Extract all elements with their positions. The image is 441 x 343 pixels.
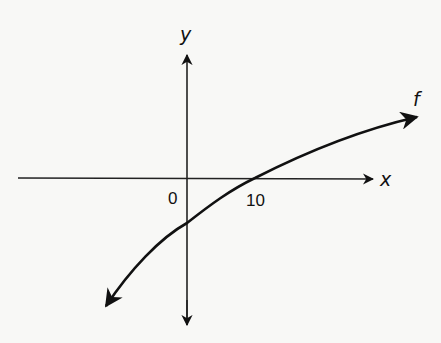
x-axis [18,178,373,179]
graph-figure: y x f 0 10 [0,0,441,343]
graph-svg [0,0,441,343]
x-axis-label: x [380,170,391,189]
x-tick-label-10: 10 [246,192,265,209]
origin-label: 0 [168,190,177,207]
y-axis-label: y [180,25,191,44]
function-curve-f [106,117,417,306]
function-label-f: f [413,90,420,109]
